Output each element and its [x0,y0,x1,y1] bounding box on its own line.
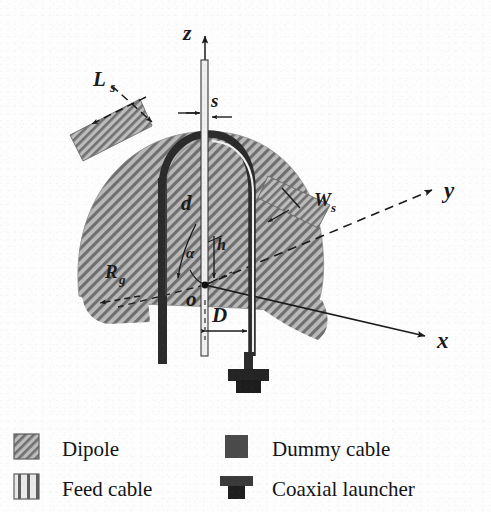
legend-item-coaxial-launcher: Coaxial launcher [220,476,415,501]
antenna-geometry-figure: z y x [0,0,491,512]
legend-label-dummy-cable: Dummy cable [272,437,390,461]
dimension-Ws-sub: s [330,200,336,215]
dummy-cable-swatch-icon [225,435,248,458]
dimension-Ls-sub: s [109,80,116,95]
dimension-D-label: D [211,303,227,327]
axis-y-label: y [441,178,455,203]
legend-item-dipole: Dipole [14,434,119,461]
origin-label: o [186,287,197,311]
dimension-Ws-label: W [314,189,332,210]
dimension-Rg-label: R [104,261,118,282]
dimension-Ls-label: L [92,67,106,91]
angle-alpha-label: α [186,245,195,261]
dimension-Rg-sub: g [118,272,126,287]
coaxial-launcher [228,352,269,393]
feed-cable-swatch-icon [14,474,39,499]
legend: Dipole Feed cable Dummy cable Coaxial la… [14,434,415,501]
legend-item-feed-cable: Feed cable [14,474,152,501]
dimension-h-label: h [217,236,226,253]
dimension-d-label: d [181,191,192,215]
legend-label-dipole: Dipole [62,437,119,461]
axis-x-label: x [436,328,449,353]
coaxial-launcher-swatch-icon [220,476,253,499]
axis-z-label: z [182,20,192,45]
figure-root: z y x [0,0,491,512]
legend-label-feed-cable: Feed cable [62,477,152,501]
legend-label-coaxial-launcher: Coaxial launcher [272,477,415,501]
dipole-swatch-icon [14,434,39,459]
dimension-s-label: s [210,90,218,111]
legend-item-dummy-cable: Dummy cable [225,435,390,461]
